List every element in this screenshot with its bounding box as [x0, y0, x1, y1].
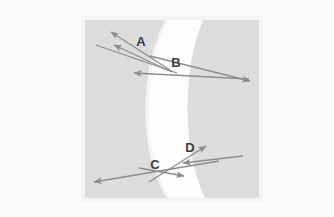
label-d: D: [185, 140, 194, 155]
figure-root: A B C D: [0, 0, 334, 217]
label-a: A: [136, 34, 146, 49]
ray-diagram-svg: A B C D: [0, 0, 334, 217]
label-c: C: [150, 157, 160, 172]
label-b: B: [171, 55, 180, 70]
